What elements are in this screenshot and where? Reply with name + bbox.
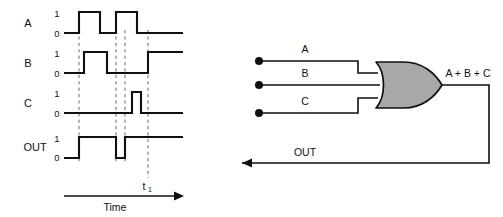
circuit-input-b: B	[255, 67, 380, 89]
input-label-a: A	[301, 43, 308, 55]
time-marker-label: t	[143, 180, 146, 192]
input-label-b: B	[301, 67, 308, 79]
signal-label-b: B	[24, 57, 31, 69]
signal-label-out: OUT	[23, 141, 47, 153]
level-high-out: 1	[54, 133, 59, 144]
circuit-output: A + B + C OUT	[242, 67, 491, 168]
level-high-c: 1	[54, 88, 59, 99]
time-axis-label: Time	[104, 201, 127, 213]
level-low-b: 0	[54, 68, 59, 79]
signal-label-a: A	[24, 17, 32, 29]
level-low-out: 0	[54, 152, 59, 163]
input-wire-a	[259, 61, 378, 73]
input-label-c: C	[301, 95, 309, 107]
signal-row-a: A 1 0	[24, 8, 183, 39]
level-high-b: 1	[54, 48, 59, 59]
circuit-diagram: A B C A + B + C O	[242, 43, 491, 168]
logic-figure: A 1 0 B 1 0 C 1 0 OUT 1	[0, 0, 503, 217]
circuit-input-c: C	[255, 95, 378, 117]
time-marker-t1: t 1	[143, 180, 153, 193]
signal-row-c: C 1 0	[24, 88, 183, 119]
output-expression-label: A + B + C	[446, 67, 491, 79]
level-low-a: 0	[54, 28, 59, 39]
or-gate-shape	[376, 62, 442, 108]
circuit-input-a: A	[255, 43, 378, 73]
or-gate	[376, 62, 442, 108]
feedback-label-out: OUT	[294, 146, 317, 158]
level-high-a: 1	[54, 8, 59, 19]
output-wire	[242, 85, 489, 163]
timing-diagram: A 1 0 B 1 0 C 1 0 OUT 1	[23, 8, 184, 213]
waveform-out	[64, 137, 183, 158]
time-axis: Time	[64, 192, 184, 214]
time-marker-subscript: 1	[148, 186, 152, 193]
input-wire-c	[259, 98, 378, 113]
signal-row-out: OUT 1 0	[23, 133, 183, 163]
time-axis-arrowhead	[174, 192, 184, 201]
waveform-a	[64, 12, 183, 33]
feedback-arrowhead	[242, 159, 252, 168]
level-low-c: 0	[54, 108, 59, 119]
signal-row-b: B 1 0	[24, 48, 183, 79]
waveform-b	[64, 52, 183, 73]
signal-label-c: C	[24, 97, 32, 109]
waveform-c	[64, 92, 183, 113]
